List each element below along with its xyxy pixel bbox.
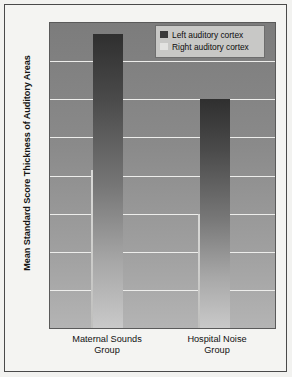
x-axis-category-1: Hospital Noise Group: [162, 334, 272, 356]
gridline: [50, 99, 275, 100]
bar-chart-figure: Mean Standard Score Thickness of Auditor…: [0, 0, 292, 377]
legend-label-right: Right auditory cortex: [172, 42, 249, 52]
gridline: [50, 61, 275, 62]
gridline: [50, 137, 275, 138]
x-axis-category-0-line1: Maternal Sounds: [52, 334, 162, 345]
legend-swatch-left-icon: [160, 31, 168, 38]
x-axis-category-0: Maternal Sounds Group: [52, 334, 162, 356]
x-axis-category-0-line2: Group: [52, 345, 162, 356]
x-axis-category-1-line1: Hospital Noise: [162, 334, 272, 345]
bar-left-auditory-cortex: [200, 99, 230, 328]
bar-left-auditory-cortex: [93, 34, 123, 328]
legend-item-right: Right auditory cortex: [160, 41, 260, 52]
legend: Left auditory cortex Right auditory cort…: [155, 25, 265, 58]
legend-label-left: Left auditory cortex: [172, 30, 243, 40]
y-axis-title: Mean Standard Score Thickness of Auditor…: [22, 48, 32, 278]
x-axis-category-1-line2: Group: [162, 345, 272, 356]
legend-swatch-right-icon: [160, 43, 168, 50]
gridline: [50, 176, 275, 177]
legend-item-left: Left auditory cortex: [160, 29, 260, 40]
plot-area: [49, 22, 276, 329]
gridline: [50, 252, 275, 253]
gridline: [50, 214, 275, 215]
gridline: [50, 290, 275, 291]
